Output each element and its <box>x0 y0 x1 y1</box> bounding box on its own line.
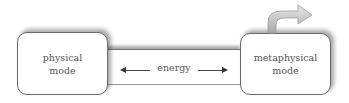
arrow-right-line <box>198 70 224 71</box>
physical-mode-box: physical mode <box>17 32 108 95</box>
metaphysical-mode-label-line2: mode <box>254 64 318 77</box>
arrow-left-line <box>124 70 150 71</box>
physical-mode-label-line2: mode <box>43 64 83 77</box>
metaphysical-mode-box: metaphysical mode <box>240 33 331 95</box>
energy-label: energy <box>155 62 193 73</box>
arrow-right-head-icon <box>222 67 228 73</box>
metaphysical-mode-label-line1: metaphysical <box>254 51 318 64</box>
curved-arrow-icon <box>262 2 322 34</box>
physical-mode-label-line1: physical <box>43 51 83 64</box>
